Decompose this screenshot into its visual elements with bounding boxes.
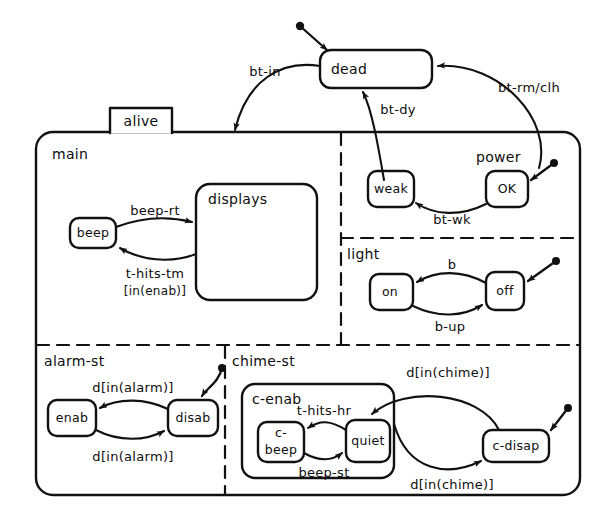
state-ok-label: OK (498, 182, 517, 195)
transition-label-d-in-alarm-up: d[in(alarm)] (92, 381, 173, 395)
default-entry-dead (296, 22, 327, 50)
region-light-label: light (347, 247, 380, 262)
statechart-diagram: dead alive main power light alarm-st chi… (0, 0, 612, 528)
transition-label-b-up: b-up (435, 320, 466, 334)
transition-label-bt-rm-clh: bt-rm/clh (498, 81, 560, 95)
state-on-label: on (382, 285, 398, 298)
state-c-disap-label: c-disap (493, 439, 540, 452)
transition-label-b: b (448, 258, 457, 272)
region-alarm-st-label: alarm-st (44, 354, 104, 369)
transition-label-d-in-chime-in: d[in(chime)] (406, 366, 490, 380)
transition-label-t-hits-hr: t-hits-hr (297, 404, 351, 418)
region-main-label: main (52, 147, 88, 162)
state-enab-label: enab (56, 411, 88, 424)
root-alive-label: alive (124, 114, 159, 129)
transition-label-d-in-alarm-down: d[in(alarm)] (92, 450, 173, 464)
state-c-beep-label-line2: beep (265, 443, 297, 456)
state-dead-label: dead (331, 62, 367, 77)
state-weak-label: weak (374, 182, 408, 195)
transition-label-beep-rt: beep-rt (130, 204, 180, 218)
state-quiet-label: quiet (351, 434, 384, 447)
transition-label-bt-in: bt-in (249, 65, 280, 79)
state-c-enab-label: c-enab (252, 392, 302, 407)
transition-label-bt-dy: bt-dy (380, 103, 416, 117)
transition-label-beep-st: beep-st (298, 466, 349, 480)
transition-label-d-in-chime-out: d[in(chime)] (410, 478, 494, 492)
state-disab-label: disab (175, 411, 210, 424)
transition-label-t-hits-tm-guard: [in(enab)] (124, 285, 187, 298)
region-chime-st-label: chime-st (232, 354, 295, 369)
transition-label-bt-wk: bt-wk (433, 213, 471, 227)
transition-label-t-hits-tm: t-hits-tm (126, 267, 185, 281)
state-c-beep-label-line1: c- (275, 426, 287, 439)
region-power-label: power (476, 150, 521, 165)
state-displays-label: displays (208, 192, 267, 207)
state-beep-label: beep (77, 226, 109, 239)
state-off-label: off (496, 284, 513, 297)
